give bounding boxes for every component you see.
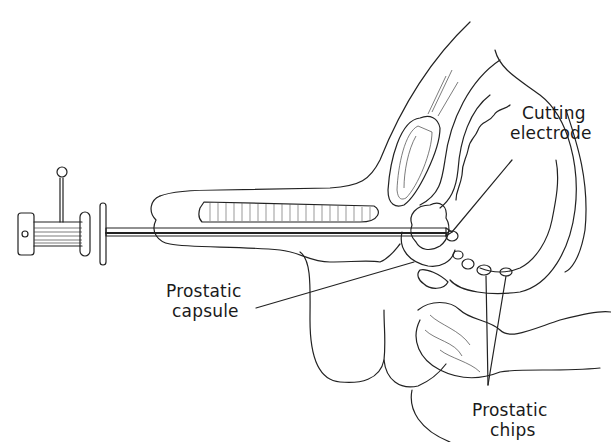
abdominal-wall-outline: [160, 22, 470, 196]
prostatic-chips: [446, 231, 512, 276]
resectoscope: [18, 167, 452, 265]
leader-cutting-electrode: [452, 160, 512, 232]
cutting-electrode-label-line2: electrode: [510, 123, 592, 143]
scrotum: [300, 252, 446, 387]
cutting-electrode-label-line1: Cutting: [510, 103, 592, 123]
prostatic-chips-label: Prostatic chips: [472, 400, 547, 440]
resectoscope-illustration: [0, 0, 611, 442]
leader-prostatic-capsule: [256, 262, 414, 308]
prostatic-capsule-label-line1: Prostatic: [166, 281, 241, 301]
prostatic-capsule-label-line2: capsule: [166, 301, 241, 321]
prostatic-chips-label-line2: chips: [472, 420, 547, 440]
cutting-electrode-label: Cutting electrode: [510, 103, 592, 143]
leader-prostatic-chips-b: [488, 276, 506, 385]
prostatic-chips-label-line1: Prostatic: [472, 400, 547, 420]
leader-prostatic-chips-a: [486, 276, 488, 385]
prostatic-capsule-label: Prostatic capsule: [166, 281, 241, 321]
penis-shaft: [151, 196, 400, 262]
prostate-gland: [401, 203, 455, 288]
pubic-bone: [388, 70, 458, 206]
